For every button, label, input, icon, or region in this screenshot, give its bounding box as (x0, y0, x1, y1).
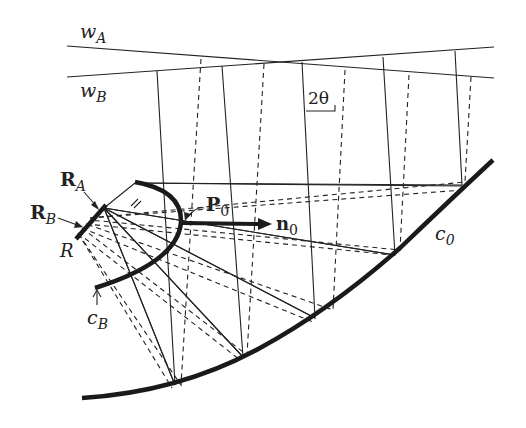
label-wA: wA (80, 20, 106, 46)
curve-c0 (82, 160, 493, 398)
label-RB: RB (30, 201, 56, 227)
diagram-canvas: 2θ wA wB RA RB R P0 n0 c (0, 0, 526, 428)
label-n0: n0 (276, 213, 298, 238)
label-c0: c0 (435, 222, 455, 248)
label-wB: wB (80, 79, 107, 105)
wavefront-wB (67, 47, 494, 77)
label-cB: cB (87, 306, 108, 332)
hatch-marks (131, 199, 141, 208)
angle-label: 2θ (308, 88, 329, 108)
angle-annotation: 2θ (306, 88, 335, 111)
receiver-segment-R (76, 205, 106, 239)
wavefronts (67, 46, 494, 78)
label-P0: P0 (206, 193, 229, 219)
labels: wA wB RA RB R P0 n0 cB c0 (30, 20, 455, 332)
label-RA: RA (60, 168, 86, 194)
label-R: R (59, 240, 74, 261)
